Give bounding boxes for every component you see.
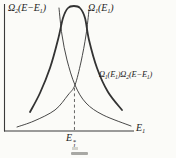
label-omega1: Ω1(E1): [88, 3, 113, 13]
label-omega2: Ω2(E−E1): [8, 3, 46, 13]
curve-omega1: [17, 10, 89, 127]
curve-product: [30, 6, 122, 112]
x-axis-label: E1: [136, 123, 145, 133]
cutoff-caption-glyph: [71, 152, 88, 155]
density-of-states-figure: Ω2(E−E1) Ω1(E1) Ω1(E1)Ω2(E−E1) E1 E*1: [0, 0, 176, 158]
peak-label: E*1: [66, 133, 76, 148]
peak-label-base: E: [66, 132, 72, 143]
curves-group: [17, 6, 131, 127]
label-product: Ω1(E1)Ω2(E−E1): [99, 71, 152, 79]
